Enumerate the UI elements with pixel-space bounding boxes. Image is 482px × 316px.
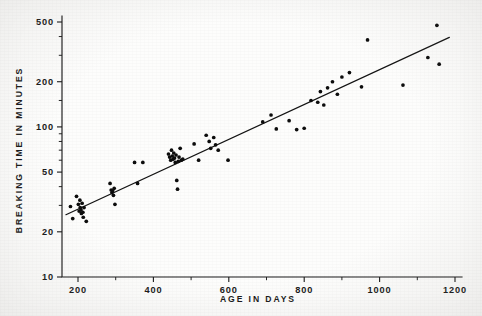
data-point bbox=[204, 133, 208, 137]
data-point bbox=[71, 217, 75, 221]
data-point bbox=[360, 85, 364, 89]
plot-axes bbox=[62, 16, 462, 277]
data-point bbox=[207, 140, 211, 144]
data-point bbox=[426, 56, 430, 60]
y-tick-label: 50 bbox=[42, 167, 54, 177]
data-point bbox=[112, 193, 116, 197]
data-point bbox=[209, 146, 213, 150]
x-tick-label: 800 bbox=[295, 285, 313, 295]
data-point bbox=[319, 90, 323, 94]
data-point bbox=[316, 100, 320, 104]
y-tick-label: 10 bbox=[42, 272, 54, 282]
x-tick-label: 200 bbox=[69, 285, 87, 295]
data-point bbox=[181, 157, 185, 161]
data-point bbox=[77, 202, 81, 206]
data-point bbox=[261, 120, 265, 124]
data-point bbox=[192, 142, 196, 146]
data-point bbox=[81, 210, 85, 214]
y-tick-label: 200 bbox=[36, 77, 54, 87]
y-tick-label: 100 bbox=[36, 122, 54, 132]
data-point bbox=[78, 198, 82, 202]
data-point bbox=[336, 92, 340, 96]
regression-fit-line bbox=[66, 37, 449, 214]
data-point bbox=[435, 23, 439, 27]
data-point bbox=[75, 194, 79, 198]
y-tick-label: 20 bbox=[42, 227, 54, 237]
data-point bbox=[401, 83, 405, 87]
data-point bbox=[212, 136, 216, 140]
data-point bbox=[269, 113, 273, 117]
data-point bbox=[84, 219, 88, 223]
y-axis-title: BREAKING TIME IN MINUTES bbox=[14, 67, 24, 233]
data-point bbox=[82, 206, 86, 210]
data-point bbox=[214, 143, 218, 147]
data-point bbox=[197, 158, 201, 162]
data-point bbox=[216, 148, 220, 152]
data-point bbox=[178, 146, 182, 150]
axis-ticks bbox=[57, 22, 455, 282]
data-point bbox=[80, 201, 84, 205]
data-point bbox=[136, 182, 140, 186]
data-point bbox=[287, 119, 291, 123]
scatter-plot: 10205010020050020040060080010001200 AGE … bbox=[0, 0, 482, 316]
data-point bbox=[331, 80, 335, 84]
data-points bbox=[69, 23, 441, 223]
data-point bbox=[141, 161, 145, 165]
data-point bbox=[112, 186, 116, 190]
x-tick-label: 1200 bbox=[443, 285, 467, 295]
data-point bbox=[326, 86, 330, 90]
data-point bbox=[322, 103, 326, 107]
data-point bbox=[108, 182, 112, 186]
figure-canvas: 10205010020050020040060080010001200 AGE … bbox=[0, 0, 482, 316]
x-tick-label: 400 bbox=[144, 285, 162, 295]
data-point bbox=[226, 158, 230, 162]
y-tick-label: 500 bbox=[36, 17, 54, 27]
data-point bbox=[133, 161, 137, 165]
data-point bbox=[274, 127, 278, 131]
data-point bbox=[302, 126, 306, 130]
data-point bbox=[69, 205, 73, 209]
data-point bbox=[309, 99, 313, 103]
data-point bbox=[113, 202, 117, 206]
data-point bbox=[174, 153, 178, 157]
data-point bbox=[176, 187, 180, 191]
data-point bbox=[81, 215, 85, 219]
x-axis-title: AGE IN DAYS bbox=[220, 294, 296, 304]
data-point bbox=[366, 38, 370, 42]
data-point bbox=[348, 71, 352, 75]
x-tick-label: 1000 bbox=[368, 285, 392, 295]
data-point bbox=[175, 179, 179, 183]
data-point bbox=[295, 128, 299, 132]
data-point bbox=[340, 75, 344, 79]
data-point bbox=[177, 155, 181, 159]
data-point bbox=[437, 62, 441, 66]
